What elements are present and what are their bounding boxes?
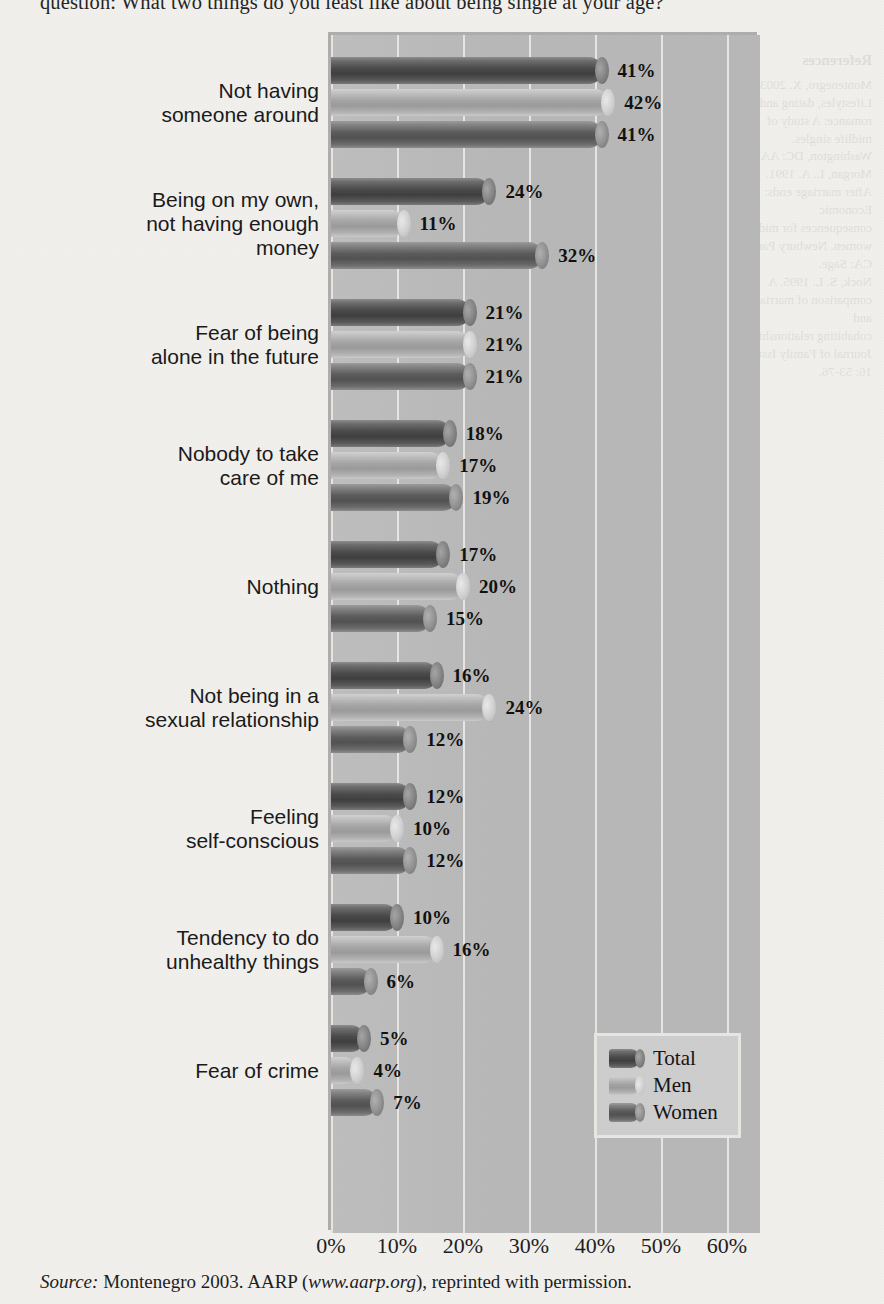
legend-label: Men [653, 1073, 692, 1098]
category-label-line: Nobody to take [69, 442, 319, 466]
bar-value-label: 24% [505, 694, 543, 721]
bar-value-label: 10% [413, 904, 451, 931]
category-label: Fear of beingalone in the future [69, 321, 319, 369]
gridline-20 [463, 35, 465, 1233]
bar-body [331, 121, 602, 148]
bar-body [331, 89, 608, 116]
bar-value-label: 16% [453, 662, 491, 689]
category-label: Being on my own,not having enoughmoney [69, 188, 319, 260]
bar-body [331, 573, 463, 600]
bar-women [331, 363, 470, 390]
bar-end-cap [357, 1025, 371, 1052]
bar-end-cap [463, 299, 477, 326]
bar-end-cap [443, 420, 457, 447]
bar-end-cap [397, 210, 411, 237]
bar-value-label: 42% [624, 89, 662, 116]
category-label: Fear of crime [69, 1059, 319, 1083]
bar-body [331, 847, 410, 874]
bar-body [331, 936, 437, 963]
bar-value-label: 15% [446, 605, 484, 632]
category-label-line: Fear of being [69, 321, 319, 345]
bar-men [331, 89, 608, 116]
x-tick-label: 40% [560, 1233, 630, 1259]
bar-end-cap [430, 936, 444, 963]
chart-legend: TotalMenWomen [594, 1033, 741, 1138]
bar-end-cap [463, 363, 477, 390]
bar-body [331, 331, 470, 358]
bar-men [331, 452, 443, 479]
x-tick-label: 30% [494, 1233, 564, 1259]
bar-women [331, 726, 410, 753]
bar-end-cap [595, 57, 609, 84]
bar-end-cap [390, 904, 404, 931]
bar-body [331, 783, 410, 810]
category-label-line: not having enough [69, 212, 319, 236]
bar-body [331, 57, 602, 84]
question-caption: question: What two things do you least l… [40, 0, 840, 14]
bar-value-label: 11% [420, 210, 457, 237]
category-label: Feelingself-conscious [69, 805, 319, 853]
x-tick-label: 60% [692, 1233, 762, 1259]
bar-value-label: 5% [380, 1025, 409, 1052]
bar-value-label: 10% [413, 815, 451, 842]
bar-men [331, 210, 404, 237]
bar-women [331, 1089, 377, 1116]
bar-value-label: 17% [459, 452, 497, 479]
bar-body [331, 694, 489, 721]
bar-value-label: 24% [505, 178, 543, 205]
legend-swatch-women [609, 1103, 640, 1122]
category-label-line: Tendency to do [69, 926, 319, 950]
bar-total [331, 541, 443, 568]
bar-men [331, 936, 437, 963]
bar-body [331, 726, 410, 753]
legend-item-total: Total [609, 1045, 718, 1072]
bar-end-cap [430, 662, 444, 689]
bar-value-label: 41% [618, 121, 656, 148]
bar-end-cap [364, 968, 378, 995]
category-label-line: unhealthy things [69, 950, 319, 974]
legend-swatch-men [609, 1076, 640, 1095]
category-label-line: alone in the future [69, 345, 319, 369]
bar-value-label: 19% [472, 484, 510, 511]
source-label: Source: [40, 1271, 98, 1292]
bar-body [331, 484, 456, 511]
bar-body [331, 242, 542, 269]
bar-end-cap [595, 121, 609, 148]
bar-body [331, 904, 397, 931]
bar-total [331, 662, 437, 689]
bar-body [331, 815, 397, 842]
source-text-after: ), reprinted with permission. [416, 1271, 632, 1292]
bar-body [331, 662, 437, 689]
bar-value-label: 17% [459, 541, 497, 568]
bar-value-label: 20% [479, 573, 517, 600]
bar-body [331, 541, 443, 568]
category-label-line: money [69, 236, 319, 260]
category-label: Nobody to takecare of me [69, 442, 319, 490]
bar-value-label: 6% [387, 968, 416, 995]
bar-body [331, 363, 470, 390]
x-tick-label: 50% [626, 1233, 696, 1259]
bar-women [331, 847, 410, 874]
bar-body [331, 452, 443, 479]
bar-women [331, 242, 542, 269]
bar-value-label: 4% [373, 1057, 402, 1084]
category-label: Not being in asexual relationship [69, 684, 319, 732]
bar-value-label: 21% [486, 331, 524, 358]
legend-swatch-cap [635, 1076, 645, 1095]
bar-women [331, 121, 602, 148]
bar-total [331, 1025, 364, 1052]
source-text-before: Montenegro 2003. AARP ( [98, 1271, 308, 1292]
bar-women [331, 484, 456, 511]
legend-swatch-total [609, 1049, 640, 1068]
category-label-line: care of me [69, 466, 319, 490]
bar-total [331, 178, 489, 205]
bar-total [331, 420, 450, 447]
x-tick-label: 10% [362, 1233, 432, 1259]
legend-item-men: Men [609, 1072, 718, 1099]
bar-value-label: 21% [486, 299, 524, 326]
category-label-line: Not having [69, 79, 319, 103]
legend-swatch-cap [635, 1049, 645, 1068]
source-url: www.aarp.org [308, 1271, 416, 1292]
category-label-line: Not being in a [69, 684, 319, 708]
bar-value-label: 18% [466, 420, 504, 447]
